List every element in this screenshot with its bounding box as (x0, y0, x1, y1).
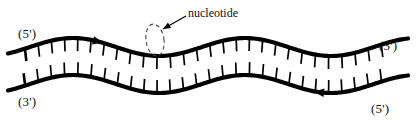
nucleotide-tick (131, 76, 132, 88)
bottom-strand-backbone (8, 75, 408, 93)
nucleotide-tick (289, 72, 290, 83)
nucleotide-tick (354, 77, 355, 89)
nucleotide-tick (183, 54, 184, 66)
nucleotide-tick (302, 76, 303, 88)
top-strand-backbone (8, 38, 408, 56)
nucleotide-tick (275, 44, 276, 55)
nucleotide-tick (117, 72, 118, 83)
nucleotide-tick (144, 79, 145, 91)
nucleotide-tick (51, 42, 52, 54)
nucleotide-tick (197, 50, 198, 61)
nucleotide-tick (116, 48, 117, 59)
nucleotide-tick (104, 68, 105, 79)
nucleotide-tick (315, 79, 316, 91)
nucleotide-tick (301, 52, 302, 64)
strand-end-label-bottom-right: (5') (371, 101, 389, 117)
dashed-ellipse-icon (144, 23, 166, 57)
nucleotide-tick (195, 73, 196, 84)
nucleotide-tick (276, 68, 277, 79)
nucleotide-tick (355, 54, 356, 66)
nucleotide-tick (170, 56, 171, 68)
nucleotide-tick (368, 50, 369, 61)
nucleotide-tick (288, 48, 289, 59)
nucleotide-tick (342, 56, 343, 68)
nucleotide-tick (170, 79, 171, 91)
nucleotide-tick (380, 69, 381, 80)
nucleotide-tick (367, 74, 368, 85)
nucleotide-tick (129, 53, 130, 65)
nucleotide-tick (222, 65, 223, 77)
nucleotide-tick (341, 79, 342, 91)
bottom-strand-group (8, 62, 408, 97)
nucleotide-tick (37, 69, 38, 80)
nucleotide-tick (38, 45, 39, 56)
nucleotide-callout-label: nucleotide (188, 6, 238, 21)
dna-figure: (5') (3') (3') (5') nucleotide (0, 0, 417, 121)
nucleotide-tick (50, 65, 51, 77)
strand-end-label-top-right: (3') (379, 38, 397, 54)
strand-end-label-top-left: (5') (18, 26, 36, 42)
nucleotide-tick (223, 42, 224, 54)
nucleotide-callout-group (144, 16, 186, 57)
nucleotide-tick (103, 44, 104, 55)
nucleotide-tick (90, 41, 91, 53)
nucleotide-tick (24, 73, 25, 84)
nucleotide-tick (25, 50, 26, 61)
top-strand-group (8, 36, 408, 69)
nucleotide-tick (91, 64, 92, 76)
nucleotide-tick (208, 69, 209, 80)
nucleotide-tick (182, 77, 183, 89)
nucleotide-tick (315, 56, 316, 68)
nucleotide-tick (210, 45, 211, 56)
nucleotide-tick (263, 64, 264, 76)
nucleotide-tick (143, 56, 144, 68)
strand-end-label-bottom-left: (3') (18, 94, 36, 110)
nucleotide-tick (262, 41, 263, 53)
